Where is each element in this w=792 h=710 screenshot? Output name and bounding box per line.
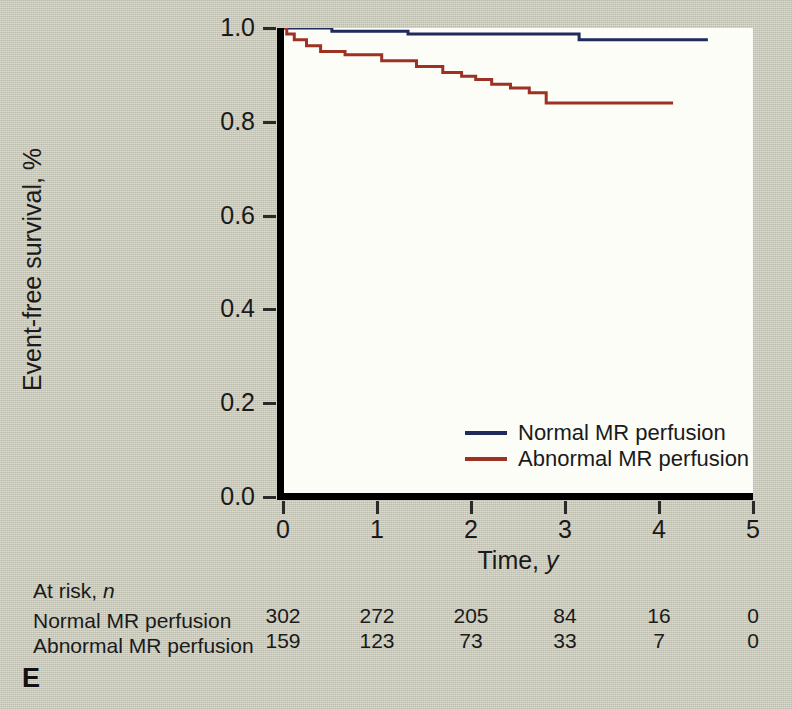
y-axis-title: Event-free survival, % — [18, 105, 47, 435]
x-axis-tick — [564, 501, 567, 514]
x-axis-tick-label: 3 — [535, 517, 595, 542]
x-axis-tick — [470, 501, 473, 514]
at-risk-title-main: At risk, — [33, 579, 103, 602]
at-risk-value: 73 — [441, 628, 501, 653]
at-risk-value: 302 — [253, 603, 313, 628]
legend-label-normal: Normal MR perfusion — [518, 422, 726, 444]
at-risk-value: 0 — [723, 603, 783, 628]
legend-item-normal: Normal MR perfusion — [465, 420, 749, 446]
x-axis-tick — [752, 501, 755, 514]
at-risk-value: 159 — [253, 628, 313, 653]
at-risk-value: 16 — [629, 603, 689, 628]
legend-line-swatch-abnormal — [465, 457, 507, 461]
at-risk-title-n: n — [103, 579, 115, 602]
x-axis-tick-label: 0 — [253, 517, 313, 542]
x-axis-tick-label: 5 — [723, 517, 783, 542]
x-axis-tick — [376, 501, 379, 514]
at-risk-value: 272 — [347, 603, 407, 628]
y-axis-tick — [263, 308, 276, 311]
at-risk-value: 84 — [535, 603, 595, 628]
at-risk-value: 0 — [723, 628, 783, 653]
x-axis-tick-label: 1 — [347, 517, 407, 542]
y-axis-tick-label: 0.8 — [185, 109, 255, 134]
y-axis-tick-label: 0.4 — [185, 296, 255, 321]
y-axis-tick — [263, 496, 276, 499]
at-risk-value: 123 — [347, 628, 407, 653]
y-axis-tick — [263, 402, 276, 405]
x-axis-title-main: Time, — [477, 546, 546, 574]
legend-item-abnormal: Abnormal MR perfusion — [465, 446, 749, 472]
y-axis-tick — [263, 215, 276, 218]
curve-normal — [283, 28, 708, 40]
y-axis-tick-label: 0.6 — [185, 203, 255, 228]
at-risk-title: At risk, n — [33, 578, 773, 603]
y-axis-tick — [263, 121, 276, 124]
x-axis-tick — [658, 501, 661, 514]
at-risk-table: At risk, n Normal MR perfusion 302272205… — [33, 578, 773, 653]
legend-line-swatch-normal — [465, 431, 507, 435]
x-axis-tick-label: 2 — [441, 517, 501, 542]
x-axis-tick — [282, 501, 285, 514]
y-axis-tick-label: 1.0 — [185, 15, 255, 40]
x-axis-line — [277, 493, 753, 500]
y-axis-line — [277, 28, 284, 500]
x-axis-title: Time, y — [283, 546, 753, 575]
figure-panel-e: 1.00.80.60.40.20.0 012345 Event-free sur… — [0, 0, 792, 710]
at-risk-value: 33 — [535, 628, 595, 653]
at-risk-values-normal: 30227220584160 — [261, 603, 773, 628]
legend-label-abnormal: Abnormal MR perfusion — [518, 448, 749, 470]
legend: Normal MR perfusion Abnormal MR perfusio… — [465, 420, 749, 472]
y-axis-tick-label: 0.2 — [185, 390, 255, 415]
at-risk-row-normal: Normal MR perfusion 30227220584160 — [33, 603, 773, 628]
at-risk-label-normal: Normal MR perfusion — [33, 608, 261, 633]
y-axis-tick — [263, 27, 276, 30]
at-risk-value: 7 — [629, 628, 689, 653]
at-risk-label-abnormal: Abnormal MR perfusion — [33, 633, 261, 658]
y-axis-tick-label: 0.0 — [185, 484, 255, 509]
panel-label: E — [22, 663, 40, 694]
x-axis-title-unit: y — [546, 546, 559, 574]
at-risk-value: 205 — [441, 603, 501, 628]
at-risk-values-abnormal: 159123733370 — [261, 628, 773, 653]
x-axis-tick-label: 4 — [629, 517, 689, 542]
